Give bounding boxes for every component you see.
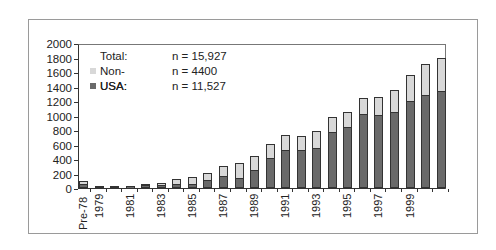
bar-2001 xyxy=(437,58,446,188)
x-tick-mark xyxy=(448,189,449,192)
bar-usa-segment xyxy=(220,176,227,187)
bar-1988 xyxy=(235,163,244,188)
bar-1996 xyxy=(359,98,368,188)
y-tick-label: 1400 xyxy=(0,82,72,94)
x-tick-label: 1995 xyxy=(342,193,353,217)
legend-label-total: Total: xyxy=(100,49,128,64)
x-tick-mark xyxy=(385,189,386,192)
bar-usa-segment xyxy=(173,184,180,187)
x-tick-mark xyxy=(90,189,91,192)
bar-1979 xyxy=(95,186,104,188)
x-tick-mark xyxy=(401,189,402,192)
x-tick-label: 1987 xyxy=(218,193,229,217)
y-tick-label: 0 xyxy=(0,183,72,195)
bar-usa-segment xyxy=(344,127,351,187)
x-tick-mark xyxy=(152,189,153,192)
x-tick-mark xyxy=(137,189,138,192)
plot-area xyxy=(78,44,446,189)
bar-1989 xyxy=(250,156,259,188)
x-tick-mark xyxy=(277,189,278,192)
y-tick-label: 800 xyxy=(0,125,72,137)
x-tick-mark xyxy=(199,189,200,192)
y-tick-mark xyxy=(74,131,78,132)
bar-1997 xyxy=(374,97,383,188)
y-tick-label: 400 xyxy=(0,154,72,166)
y-tick-label: 600 xyxy=(0,140,72,152)
legend-value-usa: n = 11,527 xyxy=(172,79,226,94)
bar-1995 xyxy=(343,112,352,188)
bar-usa-segment xyxy=(313,148,320,187)
x-tick-mark xyxy=(354,189,355,192)
y-tick-mark xyxy=(74,117,78,118)
bar-1982 xyxy=(141,184,150,188)
bar-1999 xyxy=(406,75,415,188)
y-tick-label: 1600 xyxy=(0,67,72,79)
bar-usa-segment xyxy=(282,150,289,187)
bar-1980 xyxy=(110,186,119,188)
legend-value-total: n = 15,927 xyxy=(172,49,227,64)
non-usa-swatch-icon xyxy=(90,68,96,74)
y-tick-label: 2000 xyxy=(0,38,72,50)
bar-usa-segment xyxy=(407,101,414,187)
bar-1993 xyxy=(312,131,321,188)
x-tick-label: Pre-78 xyxy=(78,197,89,230)
y-tick-mark xyxy=(74,146,78,147)
bar-usa-segment xyxy=(267,158,274,187)
x-tick-label: 1979 xyxy=(94,193,105,217)
bar-1981 xyxy=(126,186,135,188)
x-tick-mark xyxy=(168,189,169,192)
bar-1983 xyxy=(157,183,166,188)
y-tick-label: 1800 xyxy=(0,53,72,65)
x-tick-label: 1981 xyxy=(125,193,136,217)
y-tick-mark xyxy=(74,44,78,45)
y-tick-mark xyxy=(74,102,78,103)
bar-usa-segment xyxy=(438,91,445,187)
x-tick-label: 1991 xyxy=(280,193,291,217)
x-tick-label: 1983 xyxy=(156,193,167,217)
legend-label-usa: USA: xyxy=(100,79,127,94)
bar-1984 xyxy=(172,179,181,188)
x-tick-mark xyxy=(323,189,324,192)
x-tick-mark xyxy=(339,189,340,192)
bar-usa-segment xyxy=(391,112,398,187)
bar-usa-segment xyxy=(80,184,87,187)
bar-usa-segment xyxy=(422,95,429,187)
y-tick-mark xyxy=(74,175,78,176)
bar-pre-78 xyxy=(79,181,88,188)
x-tick-mark xyxy=(183,189,184,192)
y-tick-mark xyxy=(74,88,78,89)
x-tick-mark xyxy=(230,189,231,192)
bar-1992 xyxy=(297,136,306,188)
bar-1998 xyxy=(390,90,399,188)
y-tick-mark xyxy=(74,59,78,60)
bar-usa-segment xyxy=(189,184,196,187)
bar-usa-segment xyxy=(251,170,258,187)
x-tick-label: 1985 xyxy=(187,193,198,217)
bar-1985 xyxy=(188,177,197,188)
bar-usa-segment xyxy=(298,150,305,187)
x-tick-mark xyxy=(214,189,215,192)
y-tick-label: 1200 xyxy=(0,96,72,108)
bar-1994 xyxy=(328,117,337,188)
y-tick-label: 200 xyxy=(0,169,72,181)
x-tick-label: 1999 xyxy=(405,193,416,217)
bar-usa-segment xyxy=(329,132,336,187)
x-tick-label: 1993 xyxy=(311,193,322,217)
y-tick-label: 1000 xyxy=(0,111,72,123)
bar-usa-segment xyxy=(142,185,149,187)
x-tick-mark xyxy=(417,189,418,192)
x-tick-mark xyxy=(292,189,293,192)
y-tick-mark xyxy=(74,160,78,161)
x-tick-mark xyxy=(261,189,262,192)
bar-usa-segment xyxy=(236,178,243,187)
bar-2000 xyxy=(421,64,430,188)
x-tick-label: 1989 xyxy=(249,193,260,217)
x-tick-mark xyxy=(106,189,107,192)
bar-usa-segment xyxy=(204,180,211,187)
bar-1990 xyxy=(266,144,275,188)
bar-usa-segment xyxy=(158,185,165,187)
x-tick-mark xyxy=(370,189,371,192)
x-tick-mark xyxy=(246,189,247,192)
bar-1987 xyxy=(219,166,228,188)
bar-usa-segment xyxy=(360,114,367,187)
